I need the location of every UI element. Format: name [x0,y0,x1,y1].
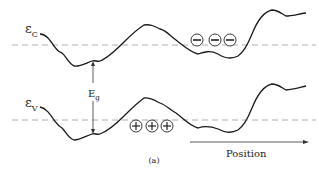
electron-icon [224,34,236,46]
hole-icon [146,120,158,132]
valence-band-label: εV [25,95,38,113]
position-label: Position [226,148,267,159]
conduction-band-curve [40,10,306,66]
hole-icon [161,120,173,132]
conduction-band-label: εC [25,21,38,39]
figure-caption: (a) [148,156,159,165]
valence-band-curve [40,84,306,140]
hole-group [130,120,173,132]
electron-icon [209,34,221,46]
band-diagram: Eg εC εV [0,0,319,179]
hole-icon [130,120,142,132]
electron-group [191,34,236,46]
electron-icon [191,34,203,46]
position-arrow [190,140,309,144]
